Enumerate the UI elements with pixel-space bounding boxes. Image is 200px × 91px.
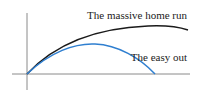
home-run-curve xyxy=(27,26,188,74)
home-run-label: The massive home run xyxy=(87,9,187,21)
easy-out-label: The easy out xyxy=(131,51,187,63)
trajectory-diagram: The massive home run The easy out xyxy=(0,0,200,91)
